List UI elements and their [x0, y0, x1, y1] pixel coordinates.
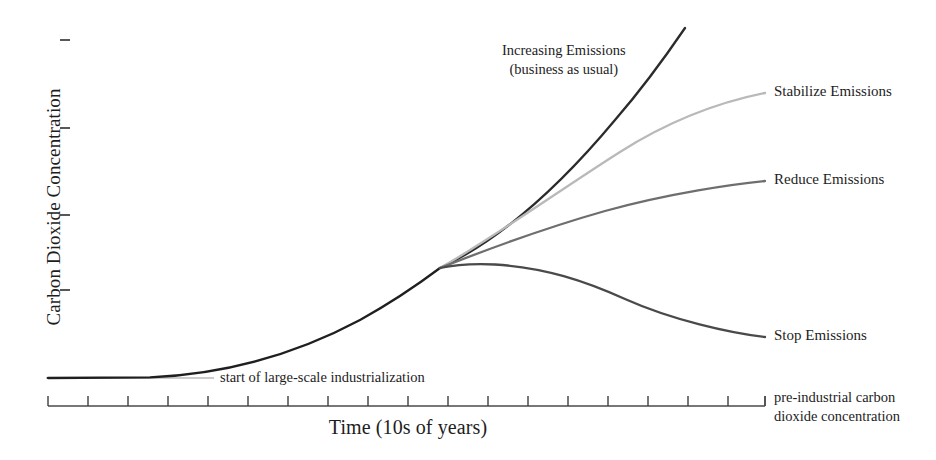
- chart-container: Carbon Dioxide Concentration Time (10s o…: [0, 0, 936, 460]
- series-reduce-emissions-curve: [440, 181, 765, 268]
- annotation-stabilize-emissions: Stabilize Emissions: [774, 83, 892, 101]
- annotation-reduce-emissions: Reduce Emissions: [774, 171, 884, 189]
- series-stabilize-emissions-curve: [440, 93, 765, 268]
- annotation-industrialization-start: start of large-scale industrialization: [220, 369, 425, 386]
- annotation-increasing-emissions-line1: Increasing Emissions: [502, 41, 626, 60]
- annotation-increasing-emissions-line2: (business as usual): [502, 60, 626, 79]
- annotation-preindustrial-line2: dioxide concentration: [774, 407, 900, 426]
- x-axis-title: Time (10s of years): [258, 416, 558, 440]
- annotation-preindustrial-line1: pre-industrial carbon: [774, 388, 900, 407]
- series-stop-emissions-curve: [440, 264, 765, 337]
- annotation-preindustrial-baseline: pre-industrial carbon dioxide concentrat…: [774, 388, 900, 425]
- x-axis-ticks: [48, 396, 765, 406]
- y-axis-title: Carbon Dioxide Concentration: [43, 57, 65, 357]
- annotation-increasing-emissions: Increasing Emissions (business as usual): [502, 41, 626, 78]
- annotation-stop-emissions: Stop Emissions: [774, 327, 867, 345]
- baseline-trunk-curve: [48, 268, 440, 378]
